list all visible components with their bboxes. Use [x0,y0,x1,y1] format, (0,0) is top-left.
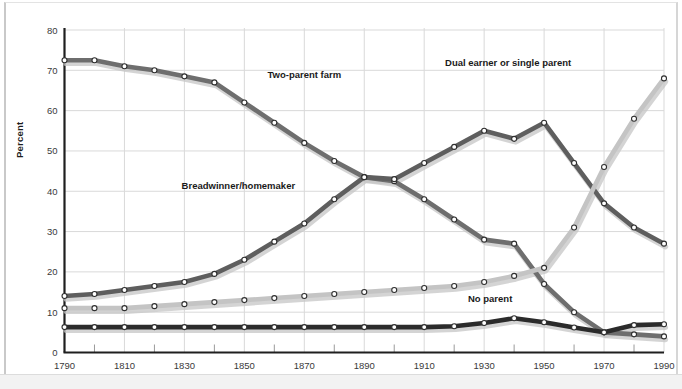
y-tick-label-80: 80 [47,25,58,36]
data-point-dual-earner-or-single-parent-1800 [92,306,97,311]
y-tick-label-10: 10 [47,307,58,318]
y-tick-label-30: 30 [47,226,58,237]
x-tick-label-1870: 1870 [294,360,315,371]
data-point-breadwinner-homemaker-1980 [632,225,637,230]
data-point-dual-earner-or-single-parent-1900 [392,288,397,293]
data-point-dual-earner-or-single-parent-1830 [182,302,187,307]
data-point-dual-earner-or-single-parent-1880 [332,292,337,297]
data-point-two-parent-farm-1800 [92,58,97,63]
data-point-two-parent-farm-1950 [542,281,547,286]
data-point-no-parent-1930 [482,321,487,326]
data-point-breadwinner-homemaker-1970 [602,201,607,206]
data-point-dual-earner-or-single-parent-1860 [272,296,277,301]
data-point-no-parent-1880 [332,325,337,330]
data-point-no-parent-1960 [572,325,577,330]
data-point-breadwinner-homemaker-1840 [212,271,217,276]
data-point-dual-earner-or-single-parent-1910 [422,286,427,291]
data-point-two-parent-farm-1880 [332,159,337,164]
data-point-dual-earner-or-single-parent-1930 [482,279,487,284]
data-point-no-parent-1890 [362,325,367,330]
data-point-dual-earner-or-single-parent-1850 [242,298,247,303]
data-point-breadwinner-homemaker-1800 [92,292,97,297]
data-point-no-parent-1850 [242,325,247,330]
data-point-dual-earner-or-single-parent-1980 [632,116,637,121]
x-tick-label-1890: 1890 [354,360,375,371]
data-point-no-parent-1810 [122,325,127,330]
data-point-breadwinner-homemaker-1900 [392,177,397,182]
data-point-breadwinner-homemaker-1860 [272,239,277,244]
data-point-dual-earner-or-single-parent-1820 [152,304,157,309]
data-point-two-parent-farm-1810 [122,64,127,69]
data-point-breadwinner-homemaker-1950 [542,120,547,125]
data-point-no-parent-1980 [632,323,637,328]
series-shadow-two-parent-farm [66,63,666,339]
data-point-no-parent-1900 [392,325,397,330]
data-point-two-parent-farm-1910 [422,197,427,202]
data-point-two-parent-farm-1980 [632,332,637,337]
series-shadow-dual-earner-or-single-parent [66,82,666,312]
data-point-breadwinner-homemaker-1820 [152,283,157,288]
x-tick-label-1910: 1910 [414,360,435,371]
data-point-two-parent-farm-1870 [302,140,307,145]
data-point-two-parent-farm-1920 [452,217,457,222]
data-point-no-parent-1800 [92,325,97,330]
y-tick-label-70: 70 [47,65,58,76]
x-tick-label-1810: 1810 [114,360,135,371]
data-point-dual-earner-or-single-parent-1890 [362,290,367,295]
data-point-breadwinner-homemaker-1810 [122,288,127,293]
data-point-breadwinner-homemaker-1890 [362,175,367,180]
series-annotation-two-parent-farm: Two-parent farm [267,69,341,80]
series-annotation-no-parent: No parent [468,293,513,304]
series-shadow-breadwinner-homemaker [66,126,666,299]
data-point-no-parent-1920 [452,324,457,329]
x-tick-label-1790: 1790 [54,360,75,371]
data-point-two-parent-farm-1850 [242,100,247,105]
data-point-no-parent-1840 [212,325,217,330]
data-point-breadwinner-homemaker-1920 [452,144,457,149]
data-point-breadwinner-homemaker-1880 [332,197,337,202]
data-point-no-parent-1790 [62,325,67,330]
data-point-dual-earner-or-single-parent-1950 [542,265,547,270]
data-point-dual-earner-or-single-parent-1960 [572,225,577,230]
data-point-two-parent-farm-1820 [152,68,157,73]
y-tick-labels-group: 01020304050607080 [47,25,58,359]
series-annotation-dual-earner-or-single-parent: Dual earner or single parent [445,57,572,68]
data-point-breadwinner-homemaker-1940 [512,136,517,141]
data-point-no-parent-1820 [152,325,157,330]
data-point-two-parent-farm-1840 [212,80,217,85]
data-point-two-parent-farm-1930 [482,237,487,242]
x-tick-label-1830: 1830 [174,360,195,371]
data-point-no-parent-1830 [182,325,187,330]
data-point-two-parent-farm-1960 [572,310,577,315]
data-point-two-parent-farm-1860 [272,120,277,125]
data-point-two-parent-farm-1940 [512,241,517,246]
series-annotation-breadwinner-homemaker: Breadwinner/homemaker [182,180,296,191]
data-point-two-parent-farm-1830 [182,74,187,79]
data-point-dual-earner-or-single-parent-1970 [602,165,607,170]
data-point-dual-earner-or-single-parent-1940 [512,273,517,278]
data-point-two-parent-farm-1790 [62,58,67,63]
data-point-no-parent-1910 [422,325,427,330]
x-tick-label-1850: 1850 [234,360,255,371]
y-tick-label-50: 50 [47,145,58,156]
data-point-dual-earner-or-single-parent-1840 [212,300,217,305]
data-point-no-parent-1940 [512,316,517,321]
y-tick-label-0: 0 [52,347,57,358]
x-tick-label-1930: 1930 [474,360,495,371]
data-point-breadwinner-homemaker-1850 [242,257,247,262]
data-point-no-parent-1970 [602,330,607,335]
data-point-dual-earner-or-single-parent-1990 [662,76,667,81]
y-tick-label-60: 60 [47,105,58,116]
data-point-breadwinner-homemaker-1930 [482,128,487,133]
data-point-dual-earner-or-single-parent-1810 [122,306,127,311]
data-point-dual-earner-or-single-parent-1920 [452,283,457,288]
data-point-dual-earner-or-single-parent-1870 [302,294,307,299]
data-point-two-parent-farm-1990 [662,334,667,339]
data-point-no-parent-1990 [662,322,667,327]
data-point-dual-earner-or-single-parent-1790 [62,306,67,311]
x-tick-label-1970: 1970 [593,360,614,371]
y-tick-label-20: 20 [47,266,58,277]
data-point-breadwinner-homemaker-1830 [182,279,187,284]
